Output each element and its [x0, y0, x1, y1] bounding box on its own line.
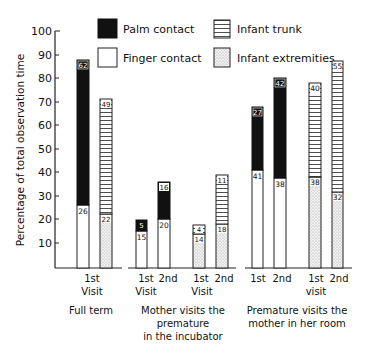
- legend-swatch-extremities: [214, 48, 230, 67]
- x-tick-label: 1st: [84, 273, 100, 284]
- x-tick-label: 1st: [250, 273, 266, 284]
- x-tick-label: Visit: [135, 286, 156, 297]
- chart: 100 90 80 70 60 50 40 30 20 10 Percentag…: [0, 0, 370, 354]
- y-tick-label: 30: [38, 190, 52, 203]
- value-label: 62: [79, 62, 88, 70]
- x-tick-label: Visit: [191, 286, 212, 297]
- group-label: premature: [157, 318, 210, 329]
- x-tick-label: 2nd: [158, 273, 177, 284]
- value-label: 41: [253, 172, 263, 181]
- value-label: 27: [253, 109, 262, 117]
- y-tick-label: 40: [38, 166, 52, 179]
- value-label: 38: [275, 180, 285, 189]
- group-label: Full term: [69, 305, 113, 316]
- x-tick-label: 1st: [138, 273, 154, 284]
- y-axis: 100 90 80 70 60 50 40 30 20 10 Percentag…: [14, 25, 60, 268]
- y-tick-label: 10: [38, 237, 52, 250]
- group-label: mother in her room: [248, 318, 346, 329]
- y-tick-label: 100: [31, 25, 52, 38]
- bar-segment-trunk: [100, 99, 112, 214]
- x-tick-label: 2nd: [214, 273, 233, 284]
- value-label: 22: [102, 216, 111, 224]
- bar-segment-palm: [77, 60, 89, 205]
- legend-label-finger: Finger contact: [123, 52, 202, 65]
- y-tick-label: 90: [38, 49, 52, 62]
- value-label: 40: [310, 84, 320, 93]
- value-label: 32: [333, 193, 343, 202]
- x-tick-label: 1st: [308, 273, 324, 284]
- group-full-term: 62 26 49 22 1st Visit Full term: [69, 60, 113, 316]
- group-label: Mother visits the: [141, 305, 225, 316]
- value-label: 18: [218, 226, 227, 234]
- legend-label-trunk: Infant trunk: [237, 23, 302, 36]
- legend-swatch-trunk: [214, 20, 230, 38]
- y-tick-label: 70: [38, 96, 52, 109]
- x-tick-label: Visit: [81, 286, 102, 297]
- value-label: 15: [137, 233, 147, 242]
- value-label: 5: [139, 222, 143, 230]
- value-label: 55: [333, 62, 343, 71]
- value-label: 16: [160, 184, 169, 192]
- x-tick-label: 2nd: [272, 273, 291, 284]
- value-label: 42: [276, 80, 285, 88]
- group-label: Premature visits the: [247, 305, 348, 316]
- group-incubator: 5 15 16 20 4 14 11 18 1st 2nd Visit 1st …: [135, 175, 233, 342]
- value-label: 49: [102, 101, 111, 109]
- group-label: in the incubator: [143, 331, 223, 342]
- value-label: 4: [197, 226, 201, 234]
- legend-swatch-palm: [98, 19, 117, 38]
- y-tick-label: 80: [38, 72, 52, 85]
- x-tick-label: 1st: [193, 273, 209, 284]
- y-tick-label: 50: [38, 143, 52, 156]
- y-tick-label: 60: [38, 119, 52, 132]
- value-label: 20: [159, 221, 169, 230]
- legend-swatch-finger: [98, 48, 117, 67]
- value-label: 26: [78, 207, 88, 216]
- x-tick-label: 2nd: [329, 273, 348, 284]
- value-label: 38: [310, 178, 320, 187]
- legend: Palm contact Finger contact Infant trunk…: [98, 19, 335, 67]
- legend-label-extremities: Infant extremities: [237, 52, 335, 65]
- legend-label-palm: Palm contact: [123, 23, 195, 36]
- value-label: 11: [218, 177, 227, 185]
- group-mother-room: 27 41 42 38 40 38 55 32 1st 2nd 1st 2nd …: [247, 61, 349, 329]
- y-tick-label: 20: [38, 213, 52, 226]
- x-tick-label: visit: [306, 286, 327, 297]
- value-label: 14: [195, 236, 204, 244]
- y-axis-title: Percentage of total observation time: [14, 54, 26, 246]
